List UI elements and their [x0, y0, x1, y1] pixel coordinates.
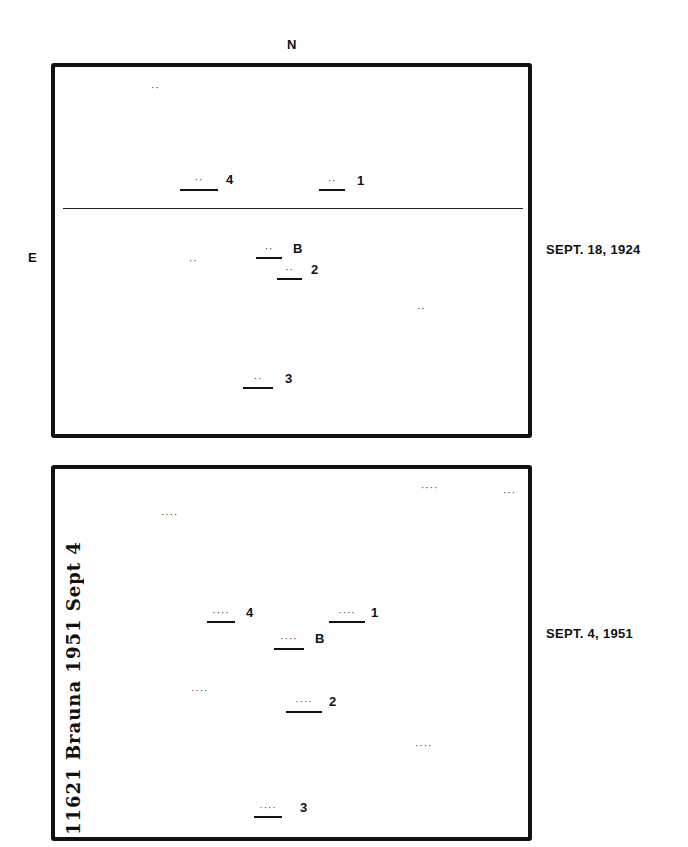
object-dots: ····: [254, 804, 282, 812]
field-star: ····: [191, 686, 208, 696]
date-label-1924: SEPT. 18, 1924: [546, 242, 641, 257]
underline-marker: [319, 189, 345, 191]
date-label-1951: SEPT. 4, 1951: [546, 626, 633, 641]
marked-object-3: ···· 3: [254, 804, 282, 818]
field-star: ··: [189, 256, 198, 266]
object-label: 3: [300, 800, 307, 815]
marked-object-B: ···· B: [274, 635, 304, 650]
object-label: 2: [329, 694, 336, 709]
underline-marker: [207, 621, 235, 623]
underline-marker: [286, 711, 322, 713]
field-star: ···: [503, 488, 516, 498]
east-label: E: [28, 250, 37, 265]
marked-object-B: ·· B: [256, 245, 282, 259]
marked-object-3: ·· 3: [243, 375, 273, 389]
underline-marker: [256, 257, 282, 259]
object-dots: ··: [277, 266, 302, 274]
object-label: 1: [371, 605, 378, 620]
underline-marker: [254, 816, 282, 818]
field-star: ····: [161, 510, 178, 520]
underline-marker: [243, 387, 273, 389]
object-label: B: [293, 241, 302, 256]
object-dots: ····: [274, 635, 304, 643]
north-label: N: [287, 37, 296, 52]
marked-object-4: ·· 4: [180, 176, 218, 191]
marked-object-1: ···· 1: [329, 609, 365, 623]
object-label: 2: [311, 262, 318, 277]
marked-object-2: ···· 2: [286, 698, 322, 713]
object-dots: ··: [256, 245, 282, 253]
object-label: 3: [285, 371, 292, 386]
underline-marker: [274, 648, 304, 650]
field-star: ····: [415, 741, 432, 751]
horizon-line: [63, 208, 523, 209]
marked-object-1: ·· 1: [319, 177, 345, 191]
object-dots: ··: [180, 176, 218, 184]
object-dots: ··: [243, 375, 273, 383]
object-label: 4: [246, 605, 253, 620]
object-label: 1: [357, 173, 364, 188]
object-dots: ····: [207, 609, 235, 617]
chart-panel-1924: ·· ·· ·· ·· 4 ·· 1 ·· B ·· 2 ·· 3: [51, 63, 532, 438]
underline-marker: [180, 189, 218, 191]
object-dots: ····: [286, 698, 322, 706]
object-dots: ··: [319, 177, 345, 185]
field-star: ··: [417, 304, 426, 314]
underline-marker: [277, 278, 302, 280]
object-label: B: [315, 631, 324, 646]
chart-panel-1951: 11621 Brauna 1951 Sept 4 ···· ··· ···· ·…: [51, 465, 532, 841]
field-star: ····: [421, 483, 438, 493]
underline-marker: [329, 621, 365, 623]
marked-object-4: ···· 4: [207, 609, 235, 623]
field-star: ··: [151, 83, 160, 93]
object-label: 4: [226, 172, 233, 187]
handwritten-annotation: 11621 Brauna 1951 Sept 4: [63, 475, 89, 835]
marked-object-2: ·· 2: [277, 266, 302, 280]
object-dots: ····: [329, 609, 365, 617]
